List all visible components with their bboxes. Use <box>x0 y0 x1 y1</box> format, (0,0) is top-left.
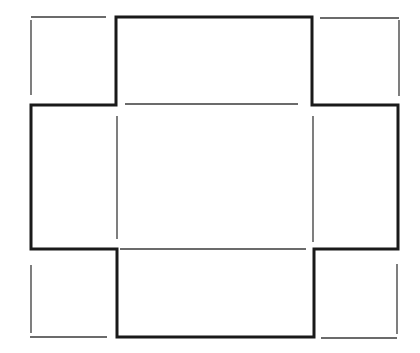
box-net-svg <box>0 0 420 353</box>
cross-outline <box>31 17 398 337</box>
box-net-diagram <box>0 0 420 353</box>
fold-lines <box>30 17 399 338</box>
